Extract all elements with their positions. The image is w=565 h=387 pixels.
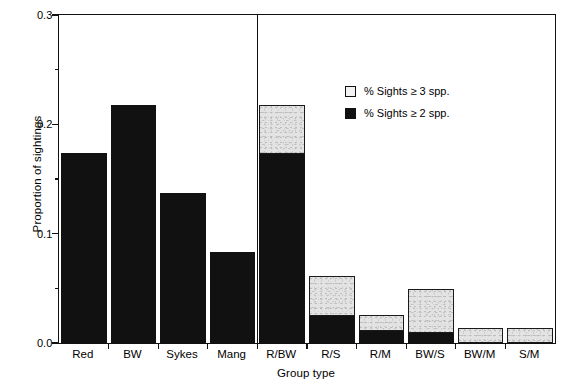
plot-inner: 0.00.10.20.3 xyxy=(59,15,555,343)
bar-segment-2spp xyxy=(210,252,256,343)
y-axis-tick-label: 0.3 xyxy=(37,9,48,21)
bar-segment-2spp xyxy=(359,331,405,343)
y-axis-tick-minor xyxy=(55,178,60,179)
x-axis-tick-label: BW/M xyxy=(464,348,495,360)
bar-mang xyxy=(210,252,256,343)
bar-r-bw xyxy=(259,105,305,343)
bar-bw-m xyxy=(458,328,504,343)
x-axis-tick-label: R/M xyxy=(370,348,391,360)
bar-segment-2spp xyxy=(309,316,355,343)
bar-segment-2spp xyxy=(111,105,157,343)
bar-segment-3spp xyxy=(408,289,454,333)
legend-label-2spp: % Sights ≥ 2 spp. xyxy=(364,107,450,119)
x-axis-tick xyxy=(257,343,258,349)
y-axis-tick-label: 0.2 xyxy=(37,118,48,130)
bar-segment-2spp xyxy=(160,193,206,343)
bar-red xyxy=(61,153,107,343)
x-axis-tick xyxy=(406,343,407,349)
x-axis-title: Group type xyxy=(58,367,554,379)
y-axis-tick-minor xyxy=(55,69,60,70)
legend-swatch-gray-icon xyxy=(345,86,356,97)
plot-area: 0.00.10.20.3 xyxy=(58,14,556,344)
x-axis-tick-label: BW xyxy=(123,348,142,360)
legend-label-3spp: % Sights ≥ 3 spp. xyxy=(364,85,450,97)
bar-segment-2spp xyxy=(408,333,454,343)
y-axis-tick-major xyxy=(52,124,59,125)
legend-item-3spp: % Sights ≥ 3 spp. xyxy=(345,80,450,102)
x-axis-tick xyxy=(455,343,456,349)
bar-segment-2spp xyxy=(259,154,305,343)
bar-segment-3spp xyxy=(359,315,405,331)
x-axis-tick-label: R/S xyxy=(321,348,340,360)
legend-item-2spp: % Sights ≥ 2 spp. xyxy=(345,102,450,124)
x-axis-tick-label: Sykes xyxy=(166,348,197,360)
x-axis-tick-label: S/M xyxy=(519,348,539,360)
x-axis-tick xyxy=(207,343,208,349)
bar-r-s xyxy=(309,276,355,343)
y-axis-title: Proportion of sightings xyxy=(31,74,43,274)
x-axis-tick-label: R/BW xyxy=(266,348,296,360)
x-axis-tick xyxy=(505,343,506,349)
chart-figure: Proportion of sightings 0.00.10.20.3 Gro… xyxy=(0,0,565,387)
x-axis-tick xyxy=(158,343,159,349)
y-axis-tick-major xyxy=(52,342,59,343)
x-axis-tick xyxy=(306,343,307,349)
x-axis-tick-label: Mang xyxy=(217,348,246,360)
y-axis-tick-label: 0.0 xyxy=(37,337,48,349)
x-axis-tick-label: BW/S xyxy=(415,348,444,360)
y-axis-tick-major xyxy=(52,233,59,234)
y-axis-tick-major xyxy=(52,14,59,15)
bar-bw-s xyxy=(408,289,454,343)
x-axis-tick xyxy=(356,343,357,349)
y-axis-tick-minor xyxy=(55,288,60,289)
bar-bw xyxy=(111,105,157,343)
bar-segment-2spp xyxy=(61,153,107,343)
group-divider xyxy=(257,15,259,343)
bar-segment-3spp xyxy=(309,276,355,315)
bar-sykes xyxy=(160,193,206,343)
bar-segment-3spp xyxy=(259,105,305,154)
bar-segment-3spp xyxy=(507,328,553,343)
bar-segment-3spp xyxy=(458,328,504,343)
chart-legend: % Sights ≥ 3 spp. % Sights ≥ 2 spp. xyxy=(345,80,450,124)
bar-r-m xyxy=(359,315,405,343)
x-axis-tick-label: Red xyxy=(72,348,93,360)
bar-s-m xyxy=(507,328,553,343)
x-axis-tick xyxy=(108,343,109,349)
legend-swatch-black-icon xyxy=(345,108,356,119)
y-axis-tick-label: 0.1 xyxy=(37,228,48,240)
